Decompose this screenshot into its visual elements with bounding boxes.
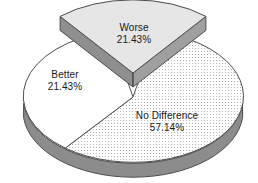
pie-chart-graphic	[0, 0, 258, 183]
pie-chart: Worse 21.43% Better 21.43% No Difference…	[0, 0, 258, 183]
